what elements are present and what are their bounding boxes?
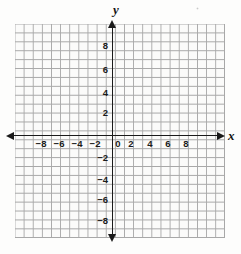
- x-axis-label: x: [228, 128, 235, 144]
- y-tick-label: 2: [96, 108, 108, 118]
- x-tick-label: 6: [165, 139, 170, 149]
- y-axis-down-arrowhead-icon: [108, 234, 116, 242]
- y-tick-label: −6: [92, 195, 108, 205]
- y-axis-line: [112, 27, 113, 235]
- y-tick-label: 8: [96, 41, 108, 51]
- x-tick-label: −6: [54, 139, 65, 149]
- y-tick-label: −2: [92, 153, 108, 163]
- x-axis-left-arrowhead-icon: [6, 132, 14, 140]
- origin-label: 0: [115, 139, 120, 149]
- x-tick-label: 4: [147, 139, 152, 149]
- y-tick-label: −8: [92, 216, 108, 226]
- scan-artifact-speck: [196, 7, 199, 10]
- x-tick-label: 8: [183, 139, 188, 149]
- grid-background: [15, 24, 225, 238]
- y-tick-label: 4: [96, 88, 108, 98]
- x-tick-label: −4: [72, 139, 83, 149]
- y-tick-label: 6: [96, 65, 108, 75]
- y-axis-label: y: [113, 2, 119, 18]
- y-axis-up-arrowhead-icon: [108, 20, 116, 28]
- x-axis-right-arrowhead-icon: [217, 132, 225, 140]
- x-tick-label: −8: [36, 139, 47, 149]
- x-axis-line: [13, 135, 220, 136]
- x-tick-label: −2: [90, 139, 101, 149]
- y-tick-label: −4: [92, 175, 108, 185]
- coordinate-plane-figure: x y −8 −6 −4 −2 0 2 4 6 8 8 6 4 2 −2 −4 …: [0, 0, 241, 254]
- x-tick-label: 2: [128, 139, 133, 149]
